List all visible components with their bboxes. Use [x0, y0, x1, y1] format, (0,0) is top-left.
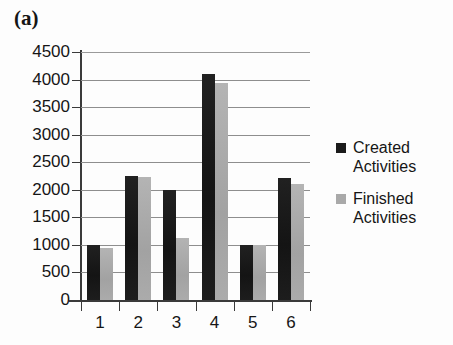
y-tick-label-0: 0 — [14, 291, 70, 308]
x-tick-mark-3 — [196, 302, 197, 311]
y-tick-mark-1000 — [72, 245, 81, 246]
y-tick-label-2500: 2500 — [14, 153, 70, 170]
x-tick-label-5: 5 — [234, 313, 272, 333]
y-tick-label-2000: 2000 — [14, 181, 70, 198]
bar-created-1 — [87, 245, 100, 300]
gridline-500 — [81, 272, 310, 273]
y-tick-mark-3000 — [72, 135, 81, 136]
y-axis-tick-labels: 450040003500300025002000150010005000 — [10, 0, 70, 345]
bar-finished-3 — [176, 238, 189, 300]
x-axis-tick-labels: 123456 — [0, 313, 453, 339]
y-tick-label-4500: 4500 — [14, 43, 70, 60]
y-tick-mark-4500 — [72, 52, 81, 53]
x-tick-label-4: 4 — [196, 313, 234, 333]
x-tick-mark-0 — [81, 302, 82, 311]
bar-finished-4 — [215, 83, 228, 300]
y-tick-label-1500: 1500 — [14, 208, 70, 225]
x-tick-label-1: 1 — [81, 313, 119, 333]
chart-legend: CreatedActivitiesFinishedActivities — [336, 138, 448, 240]
x-tick-mark-5 — [272, 302, 273, 311]
y-tick-mark-1500 — [72, 217, 81, 218]
legend-swatch-finished — [336, 194, 346, 204]
y-tick-label-1000: 1000 — [14, 236, 70, 253]
y-tick-label-3500: 3500 — [14, 98, 70, 115]
figure-panel-a: (a) 450040003500300025002000150010005000… — [0, 0, 453, 345]
gridline-1500 — [81, 217, 310, 218]
y-tick-label-3000: 3000 — [14, 126, 70, 143]
bar-created-6 — [278, 178, 291, 300]
legend-label-line1: Finished — [353, 189, 448, 208]
x-axis-line — [69, 300, 312, 302]
bar-created-2 — [125, 176, 138, 300]
bar-created-3 — [163, 190, 176, 300]
x-tick-label-6: 6 — [272, 313, 310, 333]
legend-label-line1: Created — [353, 138, 448, 157]
y-tick-mark-2500 — [72, 162, 81, 163]
x-tick-label-3: 3 — [157, 313, 195, 333]
bar-created-4 — [202, 74, 215, 300]
gridline-2500 — [81, 162, 310, 163]
gridline-4000 — [81, 80, 310, 81]
x-tick-mark-end — [310, 302, 311, 311]
gridline-1000 — [81, 245, 310, 246]
legend-entry-created: CreatedActivities — [336, 138, 448, 176]
x-tick-mark-1 — [119, 302, 120, 311]
gridline-4500 — [81, 52, 310, 53]
x-tick-mark-4 — [234, 302, 235, 311]
plot-area — [81, 52, 310, 300]
bar-finished-2 — [138, 177, 151, 300]
gridline-3000 — [81, 135, 310, 136]
y-tick-mark-0 — [72, 300, 81, 301]
y-tick-label-4000: 4000 — [14, 71, 70, 88]
legend-swatch-created — [336, 143, 346, 153]
gridline-3500 — [81, 107, 310, 108]
legend-entry-finished: FinishedActivities — [336, 189, 448, 227]
bar-finished-5 — [253, 245, 266, 300]
bar-finished-6 — [291, 184, 304, 300]
y-tick-mark-4000 — [72, 80, 81, 81]
y-tick-label-500: 500 — [14, 263, 70, 280]
x-tick-label-2: 2 — [119, 313, 157, 333]
y-tick-mark-500 — [72, 272, 81, 273]
y-tick-mark-3500 — [72, 107, 81, 108]
legend-label-line2: Activities — [353, 208, 448, 227]
gridline-2000 — [81, 190, 310, 191]
x-tick-mark-2 — [157, 302, 158, 311]
legend-label-line2: Activities — [353, 157, 448, 176]
bar-created-5 — [240, 245, 253, 300]
bar-finished-1 — [100, 248, 113, 300]
y-tick-mark-2000 — [72, 190, 81, 191]
